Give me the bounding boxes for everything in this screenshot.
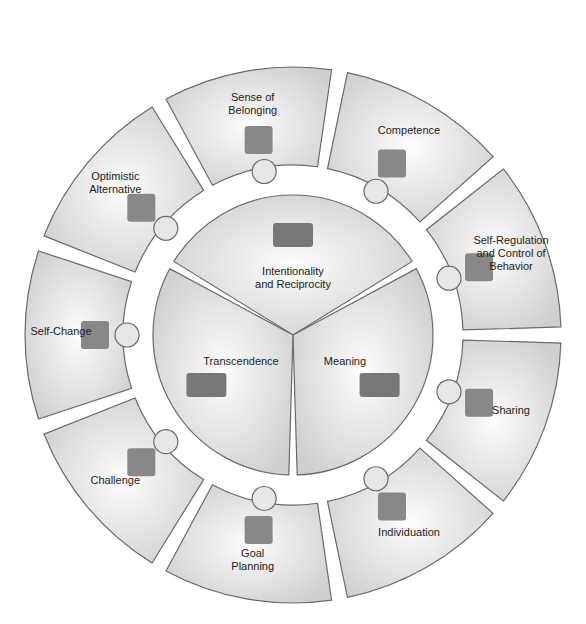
glass-icon [127,194,155,222]
puzzle-knob [364,467,388,491]
piece-label: Self-Regulation [473,234,548,246]
bridge-icon [186,373,226,397]
handshake-icon [273,223,313,247]
piece-label: Optimistic [91,170,140,182]
piece-label: Belonging [228,104,277,116]
outer-piece: OptimisticAlternative [44,107,204,272]
puzzle-knob [437,266,461,290]
puzzle-knob [252,486,276,510]
puzzle-knob [252,160,276,184]
outer-piece: Self-Change [25,251,139,419]
interlocking-rings-icon [465,389,493,417]
award-ribbon-icon [378,150,406,178]
outer-piece: Sense ofBelonging [166,67,332,185]
piece-label: and Reciprocity [255,278,331,290]
piece-label: Challenge [91,474,141,486]
puzzle-wheel-diagram: Sense ofBelongingCompetenceSelf-Regulati… [0,0,586,624]
piece-label: Meaning [324,355,366,367]
piece-label: Individuation [378,526,440,538]
piece-label: Behavior [489,260,533,272]
key-icon [360,373,400,397]
target-icon [245,516,273,544]
piece-label: Self-Change [30,325,91,337]
piece-label: Sharing [492,404,530,416]
puzzle-knob [154,430,178,454]
piece-label: Transcendence [203,355,278,367]
piece-label: Goal [241,547,264,559]
piece-label: Competence [378,124,440,136]
puzzle-knob [154,216,178,240]
piece-label: Planning [231,560,274,572]
inner-circle: Intentionalityand ReciprocityMeaningTran… [153,195,433,475]
piece-label: Alternative [89,183,141,195]
mountain-icon [127,448,155,476]
puzzle-knob [115,323,139,347]
piece-label: and Control of [476,247,546,259]
fingerprint-hand-icon [378,492,406,520]
outer-piece: Challenge [44,398,204,563]
outer-piece: GoalPlanning [166,485,332,603]
piece-label: Intentionality [262,265,324,277]
piece-label: Sense of [231,91,275,103]
puzzle-knob [364,179,388,203]
puzzle-knob [437,380,461,404]
people-circle-icon [245,126,273,154]
